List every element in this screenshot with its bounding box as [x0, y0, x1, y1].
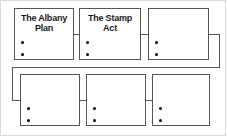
node-5-bullets: [93, 107, 96, 131]
node-2-title-line-1: The Stamp: [83, 13, 137, 23]
node-5-bullet-2[interactable]: [93, 119, 96, 122]
node-2-bullet-2[interactable]: [86, 53, 89, 56]
node-6-bullets: [159, 107, 162, 131]
node-1-title: The Albany Plan: [18, 13, 70, 33]
node-4-bullets: [27, 107, 30, 131]
node-4-bullet-2[interactable]: [27, 119, 30, 122]
flowchart-node-1[interactable]: The Albany Plan: [14, 8, 74, 60]
connector-node3-node4-segment-down: [219, 34, 220, 68]
connector-node3-node4-segment-across: [12, 67, 220, 68]
connector-node3-node4-segment-up: [12, 67, 13, 101]
flowchart-node-2[interactable]: The Stamp Act: [79, 8, 141, 60]
node-2-title: The Stamp Act: [83, 13, 137, 33]
node-1-title-line-1: The Albany: [18, 13, 70, 23]
flowchart-node-5[interactable]: [86, 74, 146, 126]
flowchart-node-3[interactable]: [148, 8, 209, 60]
node-2-bullets: [86, 41, 89, 65]
node-4-bullet-1[interactable]: [27, 107, 30, 110]
node-1-bullet-1[interactable]: [21, 41, 24, 44]
node-2-bullet-1[interactable]: [86, 41, 89, 44]
flowchart-diagram: The Albany Plan The Stamp Act: [0, 0, 227, 137]
node-2-title-line-2: Act: [83, 23, 137, 33]
flowchart-node-4[interactable]: [20, 74, 80, 126]
connector-node3-node4-segment-into: [12, 100, 20, 101]
node-3-bullet-2[interactable]: [155, 53, 158, 56]
node-5-bullet-1[interactable]: [93, 107, 96, 110]
node-1-bullets: [21, 41, 24, 65]
node-6-bullet-1[interactable]: [159, 107, 162, 110]
node-3-bullet-1[interactable]: [155, 41, 158, 44]
node-1-title-line-2: Plan: [18, 23, 70, 33]
connector-node2-node3: [141, 34, 148, 35]
node-3-bullets: [155, 41, 158, 65]
node-1-bullet-2[interactable]: [21, 53, 24, 56]
flowchart-node-6[interactable]: [152, 74, 210, 126]
node-6-bullet-2[interactable]: [159, 119, 162, 122]
